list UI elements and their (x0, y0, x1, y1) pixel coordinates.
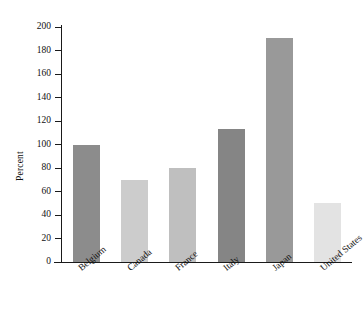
y-axis-tick-label: 100 (7, 140, 51, 150)
bar-belgium[interactable] (73, 145, 100, 263)
y-axis-tick (55, 262, 62, 263)
y-axis-tick-label: 80 (7, 163, 51, 173)
y-axis-tick-label: 60 (7, 187, 51, 197)
y-axis-tick-label: 200 (7, 22, 51, 32)
y-axis-tick (55, 74, 62, 75)
y-axis-tick (55, 215, 62, 216)
y-axis-tick (55, 238, 62, 239)
y-axis-tick-label: 160 (7, 69, 51, 79)
y-axis-tick-label: 120 (7, 116, 51, 126)
y-axis-tick-label: 40 (7, 210, 51, 220)
y-axis-tick (55, 50, 62, 51)
y-axis-tick (55, 121, 62, 122)
y-axis-tick (55, 168, 62, 169)
y-axis-tick-label: 20 (7, 234, 51, 244)
y-axis-tick (55, 27, 62, 28)
y-axis-tick (55, 144, 62, 145)
plot-area (62, 27, 352, 262)
y-axis-tick-label: 140 (7, 93, 51, 103)
y-axis-tick (55, 191, 62, 192)
bar-italy[interactable] (218, 129, 245, 262)
y-axis-tick-label: 180 (7, 46, 51, 56)
y-axis-tick-label: 0 (7, 257, 51, 267)
bar-japan[interactable] (266, 38, 293, 262)
y-axis-tick (55, 97, 62, 98)
